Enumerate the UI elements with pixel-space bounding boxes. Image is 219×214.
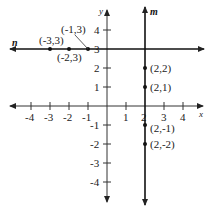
x-tick-label: -2 (63, 111, 72, 123)
point-neg3-3 (48, 47, 52, 51)
point-label: (-2,3) (57, 51, 82, 64)
leader-line (75, 35, 88, 49)
y-axis: 4 3 2 1 -1 -2 -3 -4 y (90, 6, 111, 202)
point-label: (2,-2) (150, 138, 175, 151)
y-tick-label: -2 (90, 138, 99, 150)
point-2-neg2 (143, 142, 147, 146)
point-label: (2,-1) (150, 122, 175, 135)
coordinate-plane-diagram: -4 -3 -2 -1 1 2 3 4 x 4 3 2 (0, 0, 219, 214)
x-axis-label: x (198, 109, 203, 119)
x-tick-label: -4 (25, 111, 35, 123)
points-on-line-n: (-3,3) (-2,3) (-1,3) (39, 23, 90, 64)
point-label: (2,1) (150, 81, 171, 94)
line-m-label: m (150, 6, 158, 17)
point-2-neg1 (143, 123, 147, 127)
y-tick-label: -4 (90, 176, 100, 188)
x-tick-label: -3 (44, 111, 54, 123)
y-axis-label: y (98, 6, 103, 16)
y-tick-label: 2 (94, 62, 100, 74)
y-tick-label: 1 (94, 81, 100, 93)
x-tick-label: 4 (180, 111, 186, 123)
y-tick-label: -1 (90, 119, 99, 131)
point-label: (2,2) (150, 62, 171, 75)
point-label: (-1,3) (61, 23, 86, 36)
point-label: (-3,3) (39, 34, 64, 47)
x-tick-label: 1 (123, 111, 129, 123)
point-2-2 (143, 66, 147, 70)
point-2-1 (143, 85, 147, 89)
y-tick-label: -3 (90, 157, 100, 169)
y-tick-label: 4 (94, 24, 100, 36)
line-n-label: n (12, 37, 18, 48)
diagram-canvas: -4 -3 -2 -1 1 2 3 4 x 4 3 2 (0, 0, 219, 214)
